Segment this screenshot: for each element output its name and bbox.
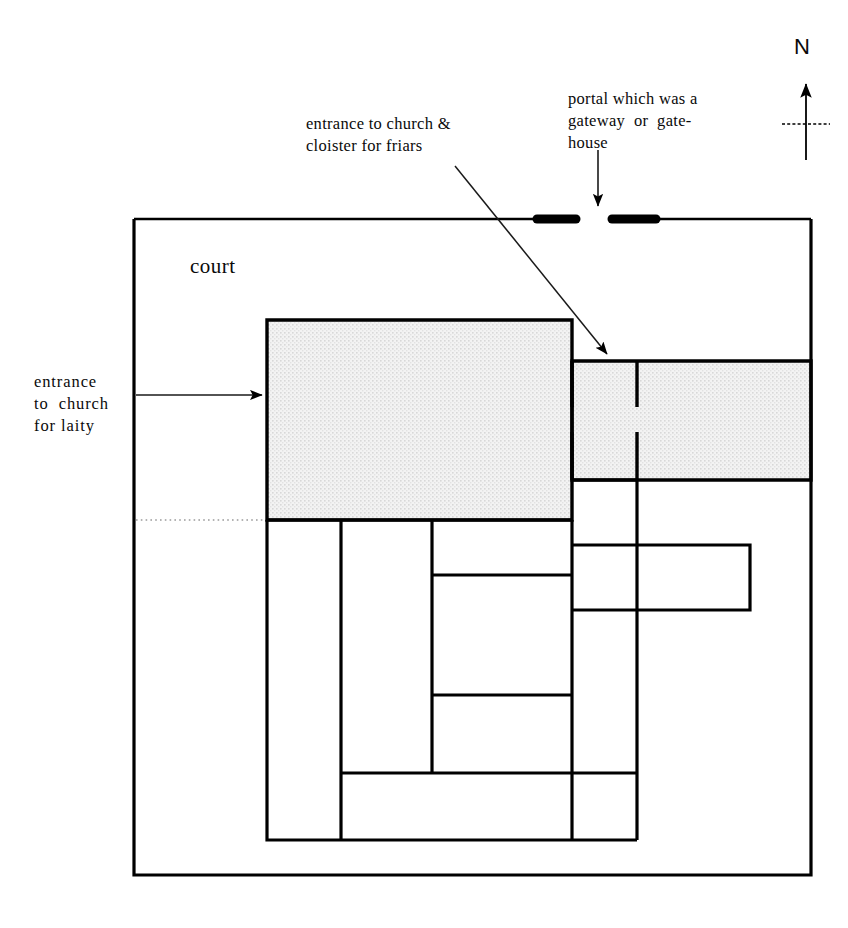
- church-shaded-area: [267, 320, 811, 520]
- compass-rose: [782, 84, 830, 160]
- annotation-entrance-laity: entrance to church for laity: [34, 371, 109, 437]
- annotation-entrance-friars: entrance to church & cloister for friars: [306, 113, 451, 157]
- plan-figure: entrance to church & cloister for friars…: [0, 0, 848, 928]
- precinct-wall-sides: [134, 219, 811, 875]
- precinct-wall: [134, 219, 811, 875]
- east-annex-outline: [572, 545, 750, 610]
- church-chancel-fill: [572, 361, 811, 480]
- compass-north-label: N: [794, 36, 810, 58]
- cloister-ranges: [267, 480, 750, 840]
- cloister-outer-west-south: [267, 520, 637, 840]
- annotation-portal: portal which was a gateway or gate- hous…: [568, 88, 698, 154]
- church-nave-fill: [267, 320, 572, 520]
- annotation-court: court: [190, 255, 236, 277]
